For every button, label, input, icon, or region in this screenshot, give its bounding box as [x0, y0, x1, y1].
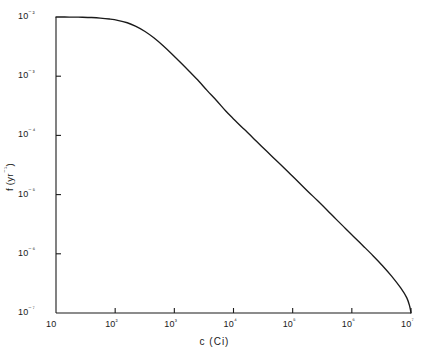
- y-axis-title: f (yr⁻¹): [2, 142, 16, 212]
- y-axis-title-text: f (yr⁻¹): [4, 163, 15, 191]
- x-axis-title: c (Ci): [0, 336, 429, 347]
- y-tick-label: 10⁻³: [18, 70, 35, 80]
- x-tick-label: 10⁷: [401, 319, 414, 329]
- x-tick-label: 10: [46, 319, 56, 329]
- y-axis-ticks: [56, 76, 61, 254]
- x-tick-label: 10⁶: [342, 319, 355, 329]
- x-tick-label: 10⁴: [224, 319, 237, 329]
- x-tick-label: 10³: [164, 319, 177, 329]
- data-series-curve: [56, 17, 411, 313]
- y-tick-label: 10⁻²: [18, 11, 35, 21]
- y-tick-label: 10⁻⁴: [18, 129, 36, 139]
- plot-canvas: [0, 0, 429, 359]
- y-tick-label: 10⁻⁵: [18, 189, 36, 199]
- figure-log-log-plot: 1010²10³10⁴10⁵10⁶10⁷ 10⁻²10⁻³10⁻⁴10⁻⁵10⁻…: [0, 0, 429, 359]
- x-axis-ticks: [115, 308, 411, 313]
- x-tick-label: 10²: [105, 319, 118, 329]
- y-tick-label: 10⁻⁷: [18, 307, 35, 317]
- y-tick-label: 10⁻⁶: [18, 248, 36, 258]
- x-tick-label: 10⁵: [283, 319, 296, 329]
